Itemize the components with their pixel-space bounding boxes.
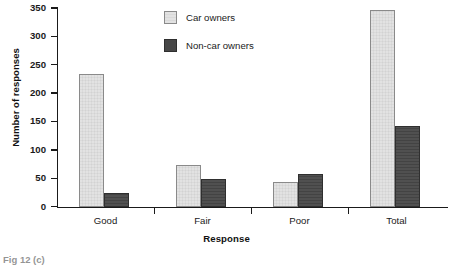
y-axis-tick-label: 50 [16,173,46,183]
category-label-good: Good [57,216,154,226]
y-axis-tick-label: 250 [16,60,46,70]
light-square-swatch-icon [164,11,177,24]
y-axis-title: Number of responses [10,13,21,183]
bar-good-car-owners [79,74,104,207]
y-axis-tick-label: 150 [16,116,46,126]
category-label-poor: Poor [251,216,348,226]
caption-text: Fig 12 (c) [3,254,123,265]
bar-chart: 050100150200250300350 GoodFairPoorTotal … [0,0,453,265]
bar-good-non-car-owners [104,193,129,207]
bar-fair-non-car-owners [201,179,226,207]
y-axis-tick-label: 350 [16,3,46,13]
x-axis-separator [154,207,155,214]
category-label-fair: Fair [154,216,251,226]
bar-fair-car-owners [176,165,201,207]
y-axis-tick-label: 0 [16,202,46,212]
bar-total-non-car-owners [395,126,420,207]
dark-square-swatch-icon [164,39,177,52]
x-axis-separator [251,207,252,214]
x-axis-title: Response [0,233,453,244]
figure-caption-partial: Fig 12 (c) [3,254,123,265]
bar-poor-car-owners [273,182,298,207]
legend-label: Car owners [186,12,235,23]
plot-area [57,8,445,207]
y-axis-tick-label: 300 [16,31,46,41]
bar-poor-non-car-owners [298,174,323,207]
legend-label: Non-car owners [186,40,254,51]
y-axis-tick-label: 100 [16,145,46,155]
y-axis-tick-label: 200 [16,88,46,98]
bar-total-car-owners [370,10,395,207]
x-axis-separator [348,207,349,214]
category-label-total: Total [348,216,445,226]
